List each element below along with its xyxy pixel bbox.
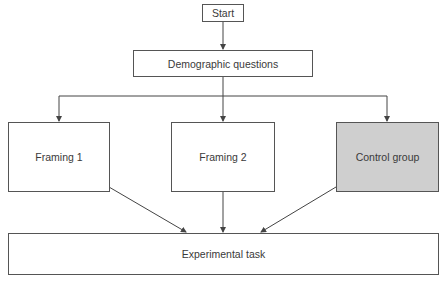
node-experimental-label: Experimental task bbox=[182, 248, 265, 260]
node-framing-2: Framing 2 bbox=[171, 122, 275, 192]
node-framing1-label: Framing 1 bbox=[35, 151, 82, 163]
node-experimental-task: Experimental task bbox=[8, 233, 439, 275]
edge-framing1-experimental bbox=[109, 187, 186, 232]
edge-control-experimental bbox=[261, 187, 336, 232]
node-framing2-label: Framing 2 bbox=[199, 151, 246, 163]
node-control-group: Control group bbox=[336, 122, 439, 192]
node-control-label: Control group bbox=[356, 151, 420, 163]
node-start-label: Start bbox=[212, 7, 234, 19]
node-demographic-questions: Demographic questions bbox=[133, 50, 313, 77]
node-framing-1: Framing 1 bbox=[8, 122, 110, 192]
node-demographic-label: Demographic questions bbox=[168, 58, 278, 70]
node-start: Start bbox=[202, 4, 244, 22]
